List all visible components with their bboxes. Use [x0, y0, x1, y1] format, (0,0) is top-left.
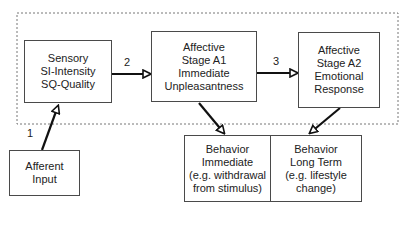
behavior-immediate-box: Behavior Immediate (e.g. withdrawal from… [184, 135, 271, 202]
edge-label-2: 2 [124, 56, 130, 68]
edge-label-3: 3 [273, 55, 279, 67]
affective-a1-box: Affective Stage A1 Immediate Unpleasantn… [151, 31, 257, 102]
arrow-a1-to-behavior-immediate [199, 103, 224, 133]
affective-a2-box: Affective Stage A2 Emotional Response [298, 32, 380, 108]
sensory-box: Sensory SI-Intensity SQ-Quality [24, 40, 112, 103]
edge-label-1: 1 [27, 127, 33, 139]
behavior-long-term-box: Behavior Long Term (e.g. lifestyle chang… [270, 135, 362, 202]
afferent-input-box: Afferent Input [9, 150, 80, 196]
arrow-a2-to-behavior-long-term [310, 108, 340, 133]
arrow-afferent-to-sensory [42, 106, 58, 150]
